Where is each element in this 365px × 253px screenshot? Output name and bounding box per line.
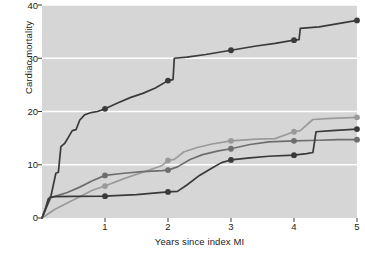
data-point-marker [102, 193, 108, 199]
data-point-marker [165, 78, 171, 84]
x-tick-marks [105, 218, 357, 222]
data-point-marker [165, 167, 171, 173]
data-series [42, 114, 360, 218]
data-point-marker [102, 183, 108, 189]
data-point-marker [228, 157, 234, 163]
data-series-group [42, 18, 360, 218]
data-point-marker [228, 47, 234, 53]
data-point-marker [165, 158, 171, 164]
chart-canvas [0, 0, 365, 253]
data-point-marker [354, 126, 360, 132]
series-line [42, 20, 357, 218]
y-tick-marks [38, 5, 42, 218]
data-point-marker [291, 37, 297, 43]
chart-figure: Cardiac mortality Years since index MI 0… [0, 0, 365, 253]
data-series [42, 18, 360, 218]
data-point-marker [354, 114, 360, 120]
data-point-marker [102, 173, 108, 179]
series-line [42, 117, 357, 218]
data-point-marker [165, 189, 171, 195]
series-line [42, 129, 357, 218]
series-line [42, 140, 357, 218]
data-point-marker [354, 137, 360, 143]
data-point-marker [354, 18, 360, 24]
data-point-marker [102, 106, 108, 112]
data-point-marker [291, 152, 297, 158]
data-point-marker [291, 138, 297, 144]
data-point-marker [228, 146, 234, 152]
data-point-marker [291, 129, 297, 135]
data-point-marker [228, 138, 234, 144]
data-series [42, 137, 360, 218]
